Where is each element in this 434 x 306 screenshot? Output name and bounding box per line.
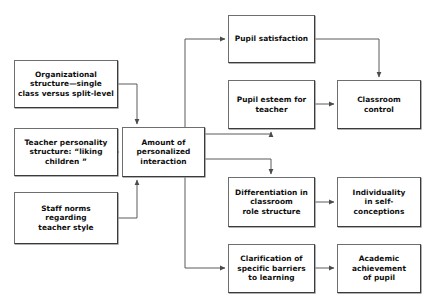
node-pupil-satisfaction[interactable]: Pupil satisfaction [228, 15, 315, 63]
flowchart-diagram: Organizational structure—single class ve… [0, 0, 434, 306]
edge-amount-to-clarification [185, 177, 225, 268]
node-individuality[interactable]: Individuality in self-conceptions [337, 177, 421, 227]
node-label: Pupil satisfaction [232, 34, 311, 44]
node-classroom-control[interactable]: Classroom control [337, 80, 421, 129]
node-label: Amount of personalized interaction [134, 138, 194, 167]
edge-amount-to-satisfaction [185, 39, 225, 127]
node-teacher-personality[interactable]: Teacher personality structure: “liking c… [14, 128, 118, 176]
node-staff-norms[interactable]: Staff norms regarding teacher style [14, 192, 118, 244]
edge-satisfaction-to-control [315, 39, 379, 77]
node-amount-personalized-interaction[interactable]: Amount of personalized interaction [122, 127, 205, 177]
node-label: Organizational structure—single class ve… [15, 70, 117, 99]
node-label: Differentiation in classroom role struct… [232, 188, 311, 217]
edge-org-to-amount [118, 84, 137, 124]
node-pupil-esteem[interactable]: Pupil esteem for teacher [228, 80, 315, 129]
node-label: Pupil esteem for teacher [234, 95, 310, 114]
edge-staff-to-amount [118, 180, 137, 218]
node-label: Academic achievement of pupil [349, 254, 409, 283]
node-label: Classroom control [338, 95, 420, 114]
edge-amount-to-esteem [205, 132, 271, 134]
node-academic-achievement[interactable]: Academic achievement of pupil [337, 244, 421, 293]
node-label: Teacher personality structure: “liking c… [22, 138, 111, 167]
node-differentiation[interactable]: Differentiation in classroom role struct… [228, 177, 315, 227]
node-clarification[interactable]: Clarification of specific barriers to le… [228, 244, 315, 293]
node-label: Clarification of specific barriers to le… [234, 254, 308, 283]
node-organizational-structure[interactable]: Organizational structure—single class ve… [14, 60, 118, 108]
node-label: Individuality in self-conceptions [338, 188, 420, 217]
node-label: Staff norms regarding teacher style [35, 204, 96, 233]
edge-amount-to-differentiation [205, 159, 271, 174]
